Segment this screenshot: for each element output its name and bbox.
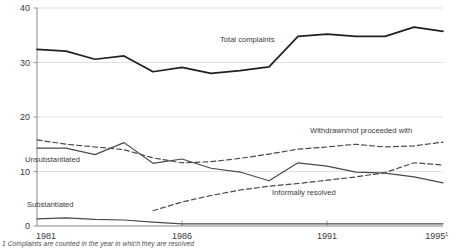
series-line-withdrawn-not-proceeded-with (37, 140, 443, 163)
chart-canvas: 01020304019811986199119951Total complain… (0, 0, 456, 252)
series-label-unsubstantiated: Unsubstantiated (25, 155, 80, 164)
series-label-substantiated: Substantiated (27, 200, 73, 209)
xtick-label-1991: 1991 (317, 231, 337, 241)
ytick-label-20: 20 (20, 112, 30, 122)
ytick-label-30: 30 (20, 58, 30, 68)
series-line-informally-resolved (153, 163, 443, 211)
ytick-label-40: 40 (20, 3, 30, 13)
xtick-label-1995: 19951 (425, 231, 448, 242)
line-chart: 01020304019811986199119951Total complain… (0, 0, 456, 252)
chart-footnote: 1 Complaints are counted in the year in … (2, 240, 194, 247)
series-line-substantiated (37, 218, 443, 224)
series-label-withdrawn-not-proceeded-with: Withdrawn/not proceeded with (310, 126, 412, 135)
series-label-total-complaints: Total complaints (220, 35, 275, 44)
series-label-informally-resolved: Informally resolved (272, 188, 336, 197)
ytick-label-10: 10 (20, 167, 30, 177)
series-line-unsubstantiated (37, 143, 443, 183)
ytick-label-0: 0 (25, 221, 30, 231)
